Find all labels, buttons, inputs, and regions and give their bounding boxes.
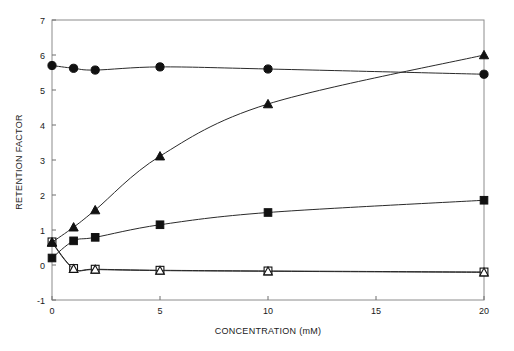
y-tick-label: 4 [40,121,45,131]
x-tick-label: 20 [479,306,489,316]
y-tick-label: 6 [40,51,45,61]
data-point-filled-circle [480,70,488,78]
data-point-filled-circle [48,61,56,69]
data-point-filled-square [91,234,99,242]
data-point-filled-circle [91,66,99,74]
retention-factor-plot: 05101520 -101234567 CONCENTRATION (mM) R… [0,0,514,351]
y-tick-label: 1 [40,226,45,236]
data-point-filled-square [70,237,78,245]
y-tick-label: 2 [40,191,45,201]
chart-background [0,0,514,351]
data-point-filled-circle [264,65,272,73]
x-tick-label: 5 [157,306,162,316]
data-point-filled-square [156,221,164,229]
x-tick-label: 10 [263,306,273,316]
x-tick-label: 15 [371,306,381,316]
data-point-filled-square [480,196,488,204]
chart-figure: 05101520 -101234567 CONCENTRATION (mM) R… [0,0,514,351]
data-point-filled-square [264,209,272,217]
x-axis-title: CONCENTRATION (mM) [215,326,322,336]
y-tick-label: 5 [40,86,45,96]
x-tick-label: 0 [49,306,54,316]
data-point-filled-circle [156,63,164,71]
data-point-filled-circle [70,64,78,72]
y-tick-label: -1 [37,296,45,306]
y-tick-label: 0 [40,261,45,271]
y-axis-title: RETENTION FACTOR [14,114,24,210]
y-tick-label: 7 [40,16,45,26]
y-tick-label: 3 [40,156,45,166]
data-point-filled-square [48,254,56,262]
